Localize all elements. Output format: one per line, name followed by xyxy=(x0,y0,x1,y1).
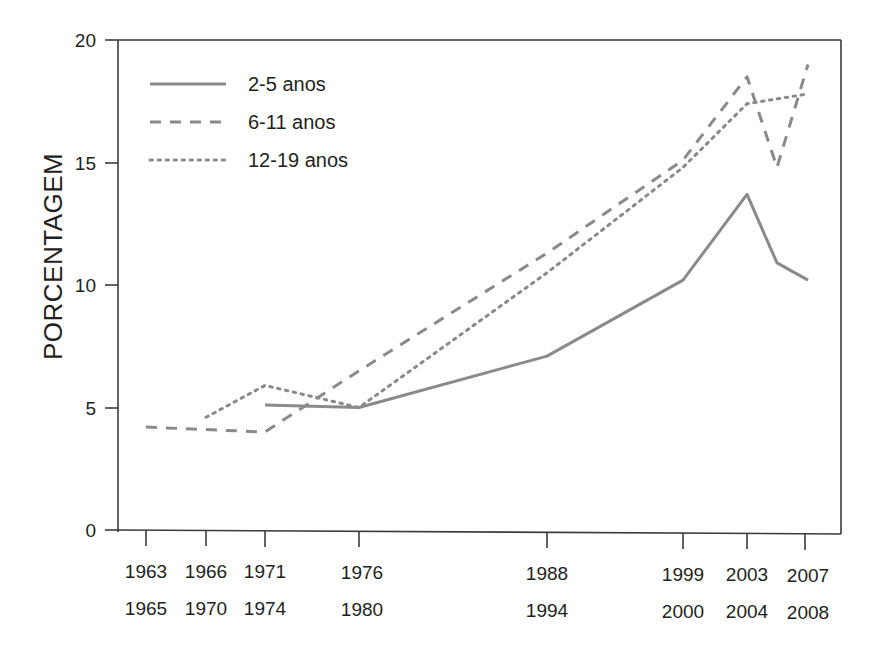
x-tick-label-top: 1971 xyxy=(244,561,286,582)
y-tick-label: 15 xyxy=(75,153,96,174)
y-tick-label: 5 xyxy=(85,398,96,419)
data-series-group xyxy=(146,65,808,433)
y-axis-title: PORCENTAGEM xyxy=(38,153,68,360)
x-tick-labels-top: 1963 1966 1971 1976 1988 1999 2003 2007 xyxy=(125,561,829,586)
y-tick-label: 20 xyxy=(75,30,96,51)
x-tick-label-top: 2003 xyxy=(726,564,768,585)
legend: 2-5 anos 6-11 anos 12-19 anos xyxy=(150,73,348,171)
legend-label-12-19-anos: 12-19 anos xyxy=(248,149,348,171)
x-tick-label-bottom: 2008 xyxy=(787,602,829,623)
x-tick-label-top: 1966 xyxy=(185,561,227,582)
x-tick-label-top: 1999 xyxy=(662,564,704,585)
y-tick-label: 0 xyxy=(85,520,96,541)
y-tick-labels: 20 15 10 5 0 xyxy=(75,30,96,541)
x-tick-label-bottom: 1994 xyxy=(526,600,569,621)
legend-label-6-11-anos: 6-11 anos xyxy=(248,111,335,133)
x-tick-label-bottom: 1965 xyxy=(125,598,167,619)
y-tick-label: 10 xyxy=(75,275,96,296)
x-tick-label-top: 1988 xyxy=(526,563,568,584)
series-line-6-11-anos xyxy=(146,65,808,433)
x-tick-label-bottom: 1974 xyxy=(244,598,287,619)
x-tick-labels-bottom: 1965 1970 1974 1980 1994 2000 2004 2008 xyxy=(125,598,829,623)
x-tick-label-bottom: 2000 xyxy=(662,601,704,622)
x-tick-label-top: 1976 xyxy=(341,562,383,583)
series-line-12-19-anos xyxy=(206,94,808,417)
x-tick-label-bottom: 1980 xyxy=(341,599,383,620)
x-tick-label-top: 1963 xyxy=(125,561,167,582)
y-tick-marks xyxy=(105,40,118,530)
legend-label-2-5-anos: 2-5 anos xyxy=(248,73,326,95)
series-line-2-5-anos xyxy=(265,194,808,407)
line-chart: 20 15 10 5 0 PORCENTAGEM 1963 1966 1971 … xyxy=(0,0,879,655)
x-tick-label-bottom: 2004 xyxy=(726,601,769,622)
chart-figure: 20 15 10 5 0 PORCENTAGEM 1963 1966 1971 … xyxy=(0,0,879,655)
x-tick-label-bottom: 1970 xyxy=(185,598,227,619)
x-axis-line xyxy=(118,530,841,534)
x-tick-label-top: 2007 xyxy=(787,565,829,586)
